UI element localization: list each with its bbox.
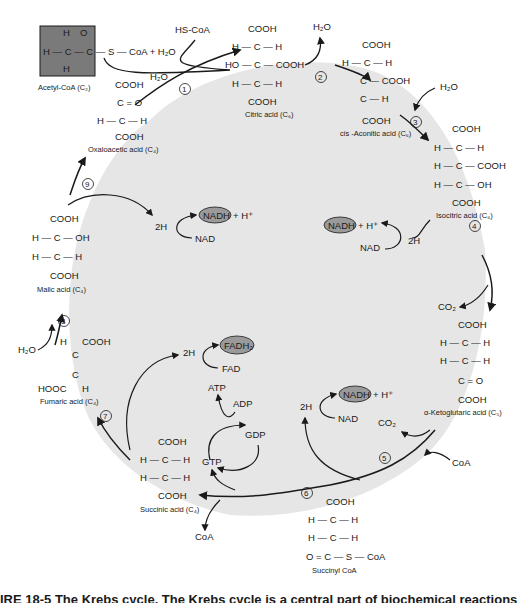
svg-text:NAD: NAD xyxy=(360,242,380,253)
coa-step5: CoA xyxy=(452,457,471,468)
figure-caption: IRE 18-5 The Krebs cycle. The Krebs cycl… xyxy=(0,590,525,603)
svg-text:NADH: NADH xyxy=(343,389,370,400)
svg-text:O = C — S — CoA: O = C — S — CoA xyxy=(306,551,386,562)
step-9-marker: 9 xyxy=(85,180,90,189)
svg-text:H: H xyxy=(82,383,89,394)
svg-text:cis -Aconitic acid (C₆): cis -Aconitic acid (C₆) xyxy=(340,129,412,138)
svg-text:2H: 2H xyxy=(300,401,312,412)
svg-text:H: H xyxy=(63,63,70,74)
svg-text:H — C — H: H — C — H xyxy=(440,337,490,348)
svg-text:H — C — H: H — C — H xyxy=(32,251,82,262)
step-5-marker: 5 xyxy=(382,454,387,463)
svg-text:C = O: C = O xyxy=(117,97,142,108)
svg-text:H — C — C — S — CoA + H₂O: H — C — C — S — CoA + H₂O xyxy=(43,46,176,57)
svg-text:Oxaloacetic acid (C₄): Oxaloacetic acid (C₄) xyxy=(88,145,159,154)
svg-text:Citric acid (C₆): Citric acid (C₆) xyxy=(245,110,294,119)
svg-text:H — C — H: H — C — H xyxy=(440,355,490,366)
svg-text:ATP: ATP xyxy=(208,382,226,393)
svg-text:GDP: GDP xyxy=(245,429,266,440)
h2o-step2: H₂O xyxy=(313,21,331,32)
svg-text:COOH: COOH xyxy=(458,319,487,330)
svg-text:C — H: C — H xyxy=(360,93,389,104)
svg-text:COOH: COOH xyxy=(158,436,187,447)
svg-text:NADH: NADH xyxy=(203,210,230,221)
svg-text:COOH: COOH xyxy=(158,490,187,501)
svg-text:H — C — H: H — C — H xyxy=(308,514,358,525)
step-7-marker: 7 xyxy=(103,412,108,421)
svg-text:COOH: COOH xyxy=(458,394,487,405)
coa-step6: CoA xyxy=(195,531,214,542)
svg-text:FADH₂: FADH₂ xyxy=(224,340,253,351)
svg-text:H — C — OH: H — C — OH xyxy=(32,232,90,243)
svg-text:H — C — H: H — C — H xyxy=(342,57,392,68)
svg-text:Fumaric acid (C₄): Fumaric acid (C₄) xyxy=(40,397,99,406)
step-4-marker: 4 xyxy=(472,222,477,231)
svg-text:H — C — H: H — C — H xyxy=(434,142,484,153)
svg-text:COOH: COOH xyxy=(326,496,355,507)
svg-text:H — C — H: H — C — H xyxy=(232,78,282,89)
acetyl-coa-label: Acetyl-CoA (C₂) xyxy=(38,83,91,92)
svg-text:H — C — COOH: H — C — COOH xyxy=(434,160,506,171)
co2-step4: CO₂ xyxy=(438,301,456,312)
svg-text:2H: 2H xyxy=(155,221,167,232)
svg-text:COOH: COOH xyxy=(362,39,391,50)
svg-text:NAD: NAD xyxy=(338,413,358,424)
svg-text:H: H xyxy=(60,336,67,347)
svg-text:2H: 2H xyxy=(183,347,195,358)
svg-text:COOH: COOH xyxy=(50,213,79,224)
svg-text:H — C — OH: H — C — OH xyxy=(434,179,492,190)
h2o-step8: H₂O xyxy=(18,344,36,355)
svg-text:COOH: COOH xyxy=(115,79,144,90)
svg-text:C — COOH: C — COOH xyxy=(360,75,410,86)
svg-text:ADP: ADP xyxy=(233,398,253,409)
step-6-marker: 6 xyxy=(304,489,309,498)
svg-text:COOH: COOH xyxy=(115,131,144,142)
krebs-cycle-diagram: H O H — C — C — S — CoA + H₂O H Acetyl-C… xyxy=(0,0,525,603)
svg-text:NADH: NADH xyxy=(328,220,355,231)
svg-text:GTP: GTP xyxy=(202,456,222,467)
co2-step5: CO₂ xyxy=(378,417,396,428)
step-3-marker: 3 xyxy=(413,118,418,127)
svg-text:Malic acid (C₄): Malic acid (C₄) xyxy=(37,285,86,294)
svg-text:H — C — H: H — C — H xyxy=(232,41,282,52)
svg-text:2H: 2H xyxy=(408,235,420,246)
svg-text:COOH: COOH xyxy=(362,115,391,126)
svg-text:α-Ketoglutaric acid (C₅): α-Ketoglutaric acid (C₅) xyxy=(424,408,502,417)
step-2-marker: 2 xyxy=(318,73,323,82)
svg-text:H: H xyxy=(63,27,70,38)
svg-text:H — C — H: H — C — H xyxy=(308,532,358,543)
cycle-arrow-9 xyxy=(70,158,85,195)
step-1-marker: 1 xyxy=(182,85,187,94)
svg-text:HO — C — COOH: HO — C — COOH xyxy=(225,59,304,70)
svg-text:COOH: COOH xyxy=(248,96,277,107)
svg-text:COOH: COOH xyxy=(248,23,277,34)
svg-text:+ H⁺: + H⁺ xyxy=(358,220,378,231)
step-8-marker: 8 xyxy=(61,317,66,326)
svg-text:C: C xyxy=(72,369,79,380)
svg-text:+ H⁺: + H⁺ xyxy=(373,389,393,400)
svg-text:H — C — H: H — C — H xyxy=(140,472,190,483)
h2o-step1: H₂O xyxy=(150,71,168,82)
hs-coa-label: HS-CoA xyxy=(175,24,211,35)
svg-text:COOH: COOH xyxy=(452,123,481,134)
svg-text:O: O xyxy=(80,27,87,38)
svg-text:COOH: COOH xyxy=(452,197,481,208)
svg-text:NAD: NAD xyxy=(195,233,215,244)
svg-text:C = O: C = O xyxy=(458,375,483,386)
svg-text:C: C xyxy=(72,349,79,360)
svg-text:Succinic acid (C₄): Succinic acid (C₄) xyxy=(140,505,200,514)
svg-text:FAD: FAD xyxy=(222,363,241,374)
svg-text:+ H⁺: + H⁺ xyxy=(233,210,253,221)
h2o-step3: H₂O xyxy=(440,81,458,92)
svg-text:H — C — H: H — C — H xyxy=(97,115,147,126)
svg-text:HOOC: HOOC xyxy=(38,383,67,394)
svg-text:COOH: COOH xyxy=(50,270,79,281)
svg-text:Succinyl CoA: Succinyl CoA xyxy=(312,566,357,575)
svg-text:Isocitric acid (C₆): Isocitric acid (C₆) xyxy=(436,211,493,220)
svg-text:COOH: COOH xyxy=(82,336,111,347)
svg-text:H — C — H: H — C — H xyxy=(140,454,190,465)
